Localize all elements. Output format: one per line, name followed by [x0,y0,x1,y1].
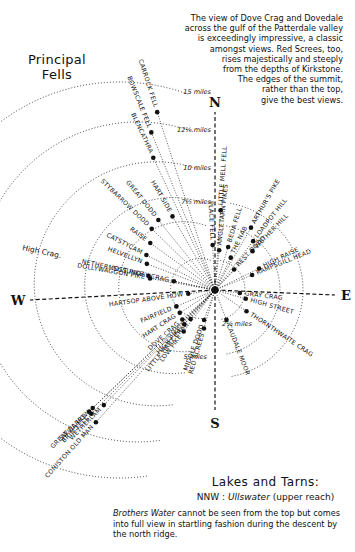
fell-summit-dot [94,420,99,425]
fell-summit-dot [144,253,149,258]
sight-line [150,243,215,290]
lakes-body: Brothers Water cannot be seen from the t… [113,508,348,540]
title-line-1: Principal [22,52,92,67]
lakes-entry: NNW : Ullswater (upper reach) [178,492,353,502]
view-note: The view of Dove Crag and Dovedale acros… [128,13,343,105]
fell-summit-dot [148,241,153,246]
compass-e: E [341,288,351,303]
fell-summit-dot [156,218,161,223]
sight-line [215,275,252,290]
fell-label: HARTSOP ABOVE HOW [108,290,183,307]
title-line-2: Fells [22,67,92,82]
fell-summit-dot [172,279,177,284]
fell-summit-dot [102,403,107,408]
fell-label: THORNTHWAITE CRAG [248,310,315,358]
fell-summit-dot [232,267,237,272]
fell-summit-dot [250,273,255,278]
sight-line [153,158,215,290]
lakes-title: Lakes and Tarns: [178,475,353,489]
fell-summit-dot [228,255,233,260]
compass-axes: NSWE [10,95,351,431]
compass-w: W [10,293,26,308]
ring-label: 2½ miles [222,320,252,328]
fell-summit-dot [249,225,254,230]
note-line: across the gulf of the Patterdale valley [128,23,343,33]
sight-line [215,290,226,320]
fell-summit-dot [186,291,191,296]
distance-ring [171,258,211,318]
lake-body-name: Brothers Water [113,508,175,518]
sight-line [215,269,259,290]
view-diagram: NSWE CARROCK FELLBOWSCALE FELLBLENCATHRA… [0,0,355,552]
note-line: from the depths of Kirkstone. [128,64,343,74]
ring-label: 10 miles [183,164,211,172]
fell-summit-dot [145,262,150,267]
lakes-section: Lakes and Tarns: NNW : Ullswater (upper … [178,475,353,502]
fell-summit-dot [177,311,182,316]
sight-line [174,281,215,290]
fell-summit-dot [170,214,175,219]
note-line: rises majestically and steeply [128,54,343,64]
lake-direction: NNW : [197,492,225,502]
note-line: give the best views. [128,95,343,105]
high-crag-label: High Crag. [22,243,63,260]
fell-summit-dot [244,309,249,314]
sight-line [204,290,215,320]
fell-label: CAUDALE MOOR [226,323,252,377]
note-line: is exceedingly impressive, a classic [128,33,343,43]
note-line: amongst views. Red Screes, too, [128,44,343,54]
compass-s: S [210,416,219,431]
fell-summit-dot [243,297,248,302]
fell-summit-dot [149,227,154,232]
fell-summit-dot [155,110,160,115]
note-line: The edges of the summit, [128,74,343,84]
distance-ring [34,162,198,406]
note-line: The view of Dove Crag and Dovedale [128,13,343,23]
fell-summit-dot [238,291,243,296]
fell-label: PLACE FELL [208,201,217,241]
sight-line [151,132,215,290]
ring-label: 12½ miles [177,126,212,134]
ring-label: 5 miles [183,353,207,361]
lake-note: (upper reach) [273,492,334,502]
summit-viewpoint [212,287,219,294]
fell-summit-dot [217,248,222,253]
note-line: rather than the top, [128,84,343,94]
fell-summit-dot [149,130,154,135]
page-title: Principal Fells [22,52,92,82]
fell-labels: CARROCK FELLBOWSCALE FELLBLENCATHRALITTL… [22,58,315,479]
distance-ring [0,122,193,442]
fell-summit-dot [174,304,179,309]
fell-summit-dot [202,318,207,323]
ring-label: 7½ miles [181,198,211,206]
fell-summit-dot [151,155,156,160]
fell-summit-dot [210,243,215,248]
sight-line [215,258,231,290]
lake-name: Ullswater [228,492,270,502]
